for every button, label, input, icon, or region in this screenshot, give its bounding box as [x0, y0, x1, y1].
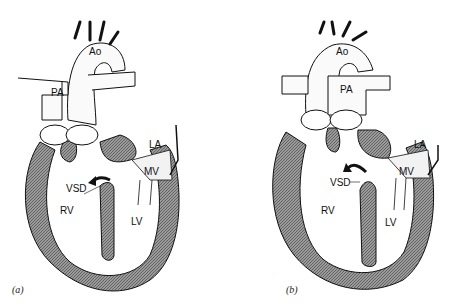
label-left-atrium: LA	[414, 140, 426, 150]
label-aorta: Ao	[336, 47, 348, 57]
label-right-ventricle: RV	[60, 206, 74, 216]
label-pulmonary-artery: PA	[51, 88, 64, 98]
heart-diagram-a	[0, 0, 228, 307]
panel-b: Ao PA LA MV VSD RV LV (b)	[228, 0, 456, 307]
label-left-ventricle: LV	[385, 218, 397, 228]
label-pulmonary-artery: PA	[340, 85, 353, 95]
label-mitral-valve: MV	[144, 167, 159, 177]
caption-b: (b)	[286, 284, 298, 295]
label-left-atrium: LA	[149, 140, 161, 150]
label-right-ventricle: RV	[321, 206, 335, 216]
label-left-ventricle: LV	[131, 217, 143, 227]
label-aorta: Ao	[89, 47, 101, 57]
label-mitral-valve: MV	[399, 167, 414, 177]
caption-a: (a)	[12, 284, 24, 295]
label-vsd: VSD	[330, 178, 351, 188]
label-vsd: VSD	[66, 184, 87, 194]
panel-a: Ao PA LA MV VSD RV LV (a)	[0, 0, 228, 307]
